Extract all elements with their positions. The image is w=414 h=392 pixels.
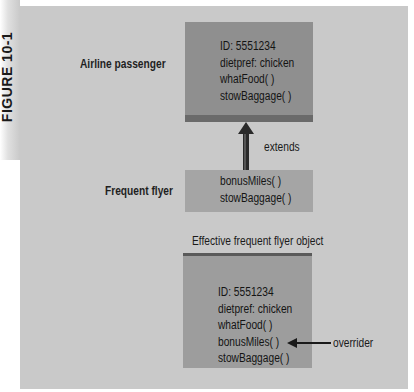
overrider-label: overrider [333,336,373,350]
member-item: stowBaggage( ) [218,350,292,367]
member-item: bonusMiles( ) [220,173,291,190]
member-item: whatFood( ) [218,317,292,334]
member-item: ID: 5551234 [218,284,292,301]
overrider-arrow-icon [287,336,331,350]
member-item: stowBaggage( ) [220,190,291,207]
effective-object-box: ID: 5551234 dietpref: chicken whatFood( … [183,253,312,368]
member-item: stowBaggage( ) [220,88,294,105]
member-item: bonusMiles( ) [218,334,292,351]
member-list: bonusMiles( ) stowBaggage( ) [220,173,304,206]
effective-object-caption: Effective frequent flyer object [192,234,323,248]
member-item: dietpref: chicken [218,301,292,318]
member-item: dietpref: chicken [220,55,294,72]
member-item: ID: 5551234 [220,38,294,55]
class-box-airline-passenger: ID: 5551234 dietpref: chicken whatFood( … [185,22,313,122]
member-list: ID: 5551234 dietpref: chicken whatFood( … [218,284,305,367]
figure-tab: FIGURE 10-1 [0,0,20,160]
figure-label: FIGURE 10-1 [0,2,16,152]
extends-arrow-icon [238,122,254,170]
extends-label: extends [264,140,300,154]
class-box-frequent-flyer: bonusMiles( ) stowBaggage( ) [185,170,313,212]
class-label-airline-passenger: Airline passenger [80,57,166,71]
member-list: ID: 5551234 dietpref: chicken whatFood( … [220,38,307,104]
class-label-frequent-flyer: Frequent flyer [105,184,173,198]
member-item: whatFood( ) [220,71,294,88]
